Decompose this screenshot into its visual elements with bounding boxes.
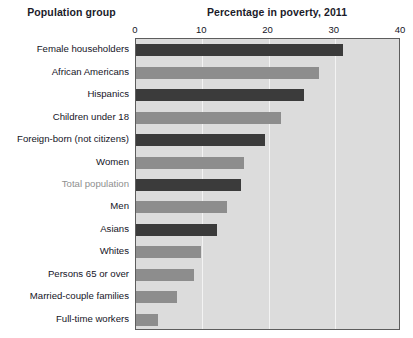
x-tick-label-10: 10 — [196, 24, 207, 35]
plot-area — [135, 38, 400, 330]
bar-foreign-born-not-citizens — [136, 134, 265, 146]
bar-persons-65-or-over — [136, 269, 194, 281]
x-tick-label-30: 30 — [328, 24, 339, 35]
x-tick-label-20: 20 — [262, 24, 273, 35]
category-label-whites: Whites — [100, 245, 129, 257]
category-label-men: Men — [110, 200, 129, 212]
category-label-asians: Asians — [100, 223, 129, 235]
category-label-full-time-workers: Full-time workers — [56, 313, 129, 325]
bar-men — [136, 201, 227, 213]
category-label-female-householders: Female householders — [37, 43, 129, 55]
bar-hispanics — [136, 89, 304, 101]
category-label-african-americans: African Americans — [52, 66, 129, 78]
poverty-bar-chart: Population group Percentage in poverty, … — [0, 0, 413, 338]
category-label-hispanics: Hispanics — [87, 88, 129, 100]
bar-children-under-18 — [136, 112, 281, 124]
chart-title: Percentage in poverty, 2011 — [143, 6, 411, 18]
x-axis-tick-labels: 010203040 — [0, 24, 413, 37]
category-label-children-under-18: Children under 18 — [53, 111, 129, 123]
bar-female-householders — [136, 44, 343, 56]
population-group-title: Population group — [0, 6, 143, 18]
x-tick-label-0: 0 — [132, 24, 137, 35]
bar-full-time-workers — [136, 314, 158, 326]
category-label-persons-65-or-over: Persons 65 or over — [48, 268, 129, 280]
bar-asians — [136, 224, 217, 236]
bars-layer — [136, 39, 399, 329]
chart-header: Population group Percentage in poverty, … — [0, 6, 413, 22]
x-tick-label-40: 40 — [395, 24, 406, 35]
category-labels: Female householdersAfrican AmericansHisp… — [0, 38, 133, 330]
category-label-foreign-born-not-citizens: Foreign-born (not citizens) — [17, 133, 129, 145]
category-label-married-couple-families: Married-couple families — [30, 290, 129, 302]
bar-married-couple-families — [136, 291, 177, 303]
category-label-women: Women — [96, 156, 129, 168]
bar-women — [136, 157, 244, 169]
bar-total-population — [136, 179, 241, 191]
category-label-total-population: Total population — [62, 178, 129, 190]
bar-whites — [136, 246, 201, 258]
bar-african-americans — [136, 67, 319, 79]
